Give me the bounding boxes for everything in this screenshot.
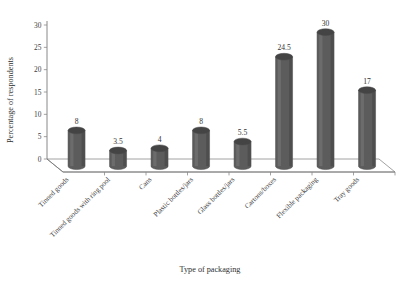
bar-group bbox=[110, 147, 127, 169]
bar-value-label: 8 bbox=[75, 117, 79, 126]
bar-value-label: 5.5 bbox=[238, 128, 248, 137]
x-category-label: Tray goods bbox=[332, 176, 361, 205]
bar-chart: 05101520253083.5485.524.53017Tinned good… bbox=[0, 0, 413, 284]
bar-value-label: 24.5 bbox=[277, 43, 290, 52]
bar-group bbox=[317, 29, 334, 170]
bar-group bbox=[151, 145, 168, 170]
y-axis-title: Percentage of respondents bbox=[6, 57, 15, 143]
bar-value-label: 8 bbox=[199, 117, 203, 126]
bar-group bbox=[193, 127, 210, 170]
x-category-label: Plastic bottles/jars bbox=[152, 176, 195, 219]
bar-top-cap bbox=[234, 138, 251, 145]
bar-value-label: 3.5 bbox=[113, 137, 123, 146]
bar-top-cap bbox=[276, 53, 293, 60]
bar-highlight bbox=[70, 130, 73, 166]
bar-shadow bbox=[331, 32, 334, 166]
bar-group bbox=[359, 87, 376, 170]
bar-highlight bbox=[236, 142, 239, 167]
chart-container: 05101520253083.5485.524.53017Tinned good… bbox=[0, 0, 413, 284]
x-category-label: Glass bottles/jars bbox=[196, 176, 237, 217]
bar-top-cap bbox=[359, 87, 376, 94]
bar-top-cap bbox=[110, 147, 127, 154]
plot-floor bbox=[47, 159, 395, 172]
bar-shadow bbox=[372, 90, 375, 166]
bar-top-cap bbox=[151, 145, 168, 152]
bar-top-cap bbox=[317, 29, 334, 36]
x-axis-title: Type of packaging bbox=[180, 265, 241, 274]
x-category-label: Tinned goods bbox=[37, 176, 70, 209]
bar-shadow bbox=[289, 57, 292, 166]
bar-value-label: 30 bbox=[322, 19, 330, 28]
bar-highlight bbox=[361, 90, 364, 166]
bar-top-cap bbox=[193, 127, 210, 134]
bar-shadow bbox=[82, 130, 85, 166]
y-tick-label: 0 bbox=[38, 155, 42, 164]
bar-shadow bbox=[206, 130, 209, 166]
bar-top-cap bbox=[68, 127, 85, 134]
y-tick-label: 15 bbox=[34, 88, 42, 97]
x-category-label: Cartons/boxes bbox=[243, 176, 278, 211]
bar-group bbox=[68, 127, 85, 170]
y-tick-label: 5 bbox=[38, 132, 42, 141]
x-category-label: Flexible packaging bbox=[275, 175, 320, 220]
x-category-label: Cans bbox=[138, 176, 154, 192]
bar-highlight bbox=[278, 57, 281, 166]
y-tick-label: 10 bbox=[34, 110, 42, 119]
bar-value-label: 17 bbox=[363, 77, 371, 86]
y-tick-label: 20 bbox=[34, 65, 42, 74]
bar-highlight bbox=[195, 130, 198, 166]
bar-value-label: 4 bbox=[158, 135, 162, 144]
bar-group bbox=[234, 138, 251, 169]
bar-shadow bbox=[248, 142, 251, 167]
bar-highlight bbox=[319, 32, 322, 166]
bar-group bbox=[276, 53, 293, 169]
y-axis-depth-line bbox=[47, 159, 63, 172]
y-tick-label: 25 bbox=[34, 43, 42, 52]
y-tick-label: 30 bbox=[34, 21, 42, 30]
